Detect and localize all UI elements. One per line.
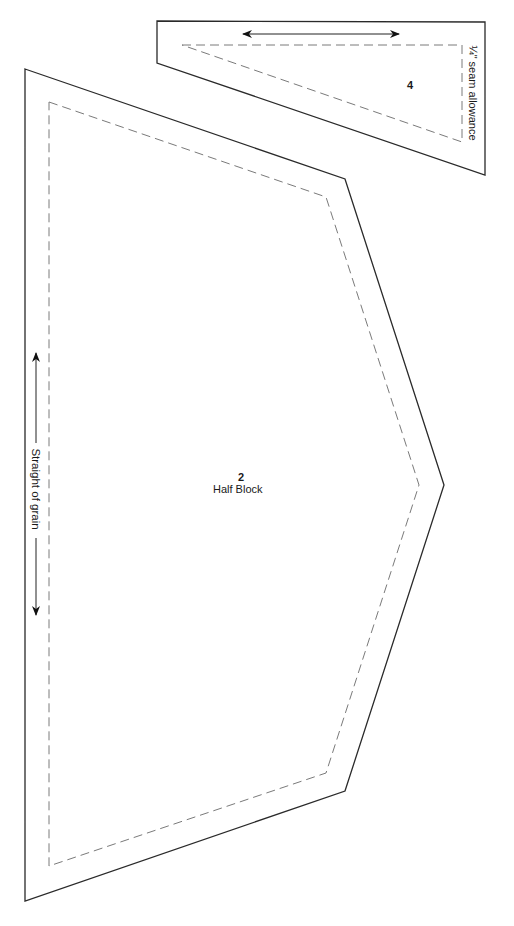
seam-allowance-label: ¼" seam allowance (467, 43, 479, 143)
grain-label: Straight of grain (30, 444, 42, 534)
piece-2-number: 2 (238, 471, 244, 483)
piece-2-name: Half Block (213, 483, 263, 495)
piece-4-number: 4 (407, 79, 413, 91)
pattern-canvas (0, 0, 514, 926)
